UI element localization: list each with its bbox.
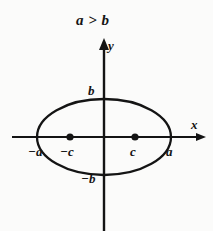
left-vertex-label: −a bbox=[28, 145, 42, 158]
right-focus-label: c bbox=[130, 145, 136, 158]
ellipse-diagram: a > b y x b −b −a −c c a bbox=[0, 0, 213, 231]
condition-label: a > b bbox=[76, 13, 110, 28]
y-axis-label: y bbox=[108, 39, 114, 52]
right-focus-point bbox=[131, 133, 138, 140]
x-axis-arrowhead bbox=[196, 133, 206, 141]
bottom-vertex-label: −b bbox=[81, 172, 95, 185]
left-focus-point bbox=[66, 133, 73, 140]
right-vertex-label: a bbox=[166, 145, 173, 158]
x-axis-label: x bbox=[191, 118, 198, 131]
left-focus-label: −c bbox=[60, 145, 74, 158]
top-vertex-label: b bbox=[88, 84, 95, 97]
diagram-canvas bbox=[0, 0, 213, 231]
